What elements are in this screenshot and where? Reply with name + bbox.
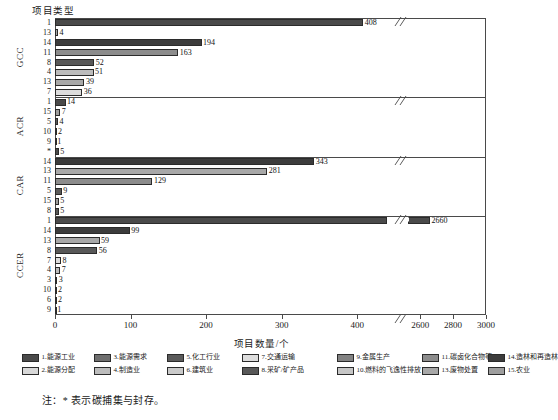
- bar: [55, 237, 100, 244]
- legend-item-4: 4.制造业: [94, 365, 140, 376]
- x-axis-tick-label: 2800: [444, 321, 462, 330]
- legend-swatch: [242, 354, 259, 362]
- x-axis-tick: [453, 315, 454, 319]
- bar: [55, 158, 314, 165]
- bar-value-label: 5: [60, 148, 64, 156]
- bar: [55, 99, 66, 106]
- legend: 1.能源工业3.能源需求5.化工行业7.交通运输9.金属生产11.碳卤化合物等1…: [22, 352, 517, 382]
- legend-label: 9.金属生产: [357, 354, 390, 361]
- category-tick-label: 3: [28, 276, 51, 284]
- category-tick-label: 8: [28, 59, 51, 67]
- legend-item-11: 11.碳卤化合物等: [422, 352, 492, 363]
- category-tick-label: 1: [28, 98, 51, 106]
- legend-label: 3.能源需求: [114, 354, 147, 361]
- category-tick-label: 14: [28, 158, 51, 166]
- bar-value-label: 129: [154, 177, 166, 185]
- legend-item-8: 8.采矿/矿产品: [242, 365, 304, 376]
- legend-swatch: [422, 354, 439, 362]
- y-axis-title: 项目类型: [32, 3, 74, 17]
- bar-value-label: 5: [60, 207, 64, 215]
- legend-item-9: 9.金属生产: [337, 352, 390, 363]
- category-tick-label: 10: [28, 286, 51, 294]
- bar-value-label: 4: [60, 29, 64, 37]
- category-tick-label: 13: [28, 167, 51, 175]
- legend-swatch: [488, 367, 505, 375]
- category-tick-label: 15: [28, 108, 51, 116]
- bar-value-label: 3: [59, 276, 63, 284]
- x-axis-tick-label: 200: [199, 321, 213, 330]
- bar-value-label: 99: [131, 227, 139, 235]
- bar-value-label: 2660: [432, 217, 448, 225]
- legend-label: 11.碳卤化合物等: [442, 354, 493, 361]
- legend-item-15: 15.农业: [488, 365, 530, 376]
- legend-label: 15.农业: [508, 367, 531, 374]
- category-tick-label: 9: [28, 138, 51, 146]
- bar-value-label: 36: [84, 88, 92, 96]
- legend-label: 5.化工行业: [187, 354, 220, 361]
- legend-swatch: [94, 367, 111, 375]
- bar-value-label: 2: [58, 286, 62, 294]
- legend-swatch: [94, 354, 111, 362]
- category-tick-label: 15: [28, 197, 51, 205]
- bar: [55, 227, 130, 234]
- category-tick-label: 4: [28, 266, 51, 274]
- legend-swatch: [422, 367, 439, 375]
- legend-label: 6.建筑业: [187, 367, 213, 374]
- bar-value-label: 343: [316, 158, 328, 166]
- bar-segment-high: [408, 217, 430, 224]
- legend-swatch: [22, 354, 39, 362]
- bar-value-label: 14: [67, 98, 75, 106]
- bar-value-label: 1: [57, 306, 61, 314]
- bar: [55, 29, 58, 36]
- bar: [55, 257, 61, 264]
- bar: [55, 109, 60, 116]
- category-tick-label: 13: [28, 78, 51, 86]
- category-tick-label: 14: [28, 39, 51, 47]
- group-label-car: CAR: [15, 165, 25, 205]
- legend-label: 7.交通运输: [262, 354, 295, 361]
- legend-item-10: 10.燃料的飞逸性排放: [337, 365, 421, 376]
- category-tick-label: 7: [28, 88, 51, 96]
- bar: [55, 148, 59, 155]
- legend-label: 8.采矿/矿产品: [262, 367, 304, 374]
- bar: [55, 208, 59, 215]
- legend-swatch: [337, 354, 354, 362]
- legend-swatch: [337, 367, 354, 375]
- bar-value-label: 7: [62, 266, 66, 274]
- bar-value-label: 56: [99, 247, 107, 255]
- group-label-ccer: CCER: [15, 245, 25, 285]
- category-tick-label: 11: [28, 177, 51, 185]
- category-tick-label: 4: [28, 68, 51, 76]
- legend-swatch: [488, 354, 505, 362]
- bar-value-label: 9: [63, 187, 67, 195]
- legend-item-3: 3.能源需求: [94, 352, 147, 363]
- bar-value-label: 2: [58, 128, 62, 136]
- category-tick-label: 11: [28, 49, 51, 57]
- bar: [55, 89, 82, 96]
- legend-label: 2.能源分配: [42, 367, 75, 374]
- group-separator: [55, 157, 486, 158]
- x-axis-tick-label: 0: [53, 321, 58, 330]
- legend-swatch: [167, 367, 184, 375]
- x-axis-tick-label: 2600: [411, 321, 429, 330]
- bar: [55, 118, 58, 125]
- legend-item-6: 6.建筑业: [167, 365, 213, 376]
- bar: [55, 287, 57, 294]
- category-tick-label: *: [28, 148, 51, 156]
- category-tick-label: 1: [28, 19, 51, 27]
- bar-value-label: 4: [60, 118, 64, 126]
- bar-value-label: 52: [96, 59, 104, 67]
- legend-item-5: 5.化工行业: [167, 352, 220, 363]
- x-axis-tick: [357, 315, 358, 319]
- category-tick-label: 5: [28, 187, 51, 195]
- bar-value-label: 1: [57, 138, 61, 146]
- x-axis-tick-label: 300: [275, 321, 289, 330]
- category-tick-label: 10: [28, 128, 51, 136]
- legend-swatch: [22, 367, 39, 375]
- legend-swatch: [167, 354, 184, 362]
- bar: [55, 128, 57, 135]
- bar: [55, 59, 94, 66]
- bar-value-label: 163: [180, 49, 192, 57]
- bar-value-label: 7: [62, 108, 66, 116]
